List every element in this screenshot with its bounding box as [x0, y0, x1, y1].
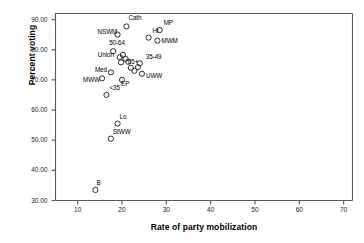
point-label: StWW [113, 128, 131, 135]
point-label: Med [95, 66, 107, 73]
point-label: Union [98, 51, 114, 58]
point-label: UWW [146, 72, 162, 79]
point-label: NSWM [98, 28, 118, 35]
y-tick-label: 70.00 [18, 76, 48, 83]
x-tick-label: 50 [245, 206, 265, 213]
y-tick-label: 60.00 [18, 106, 48, 113]
y-tick-label: 80.00 [18, 46, 48, 53]
y-tick-label: 50.00 [18, 136, 48, 143]
point-label: B [96, 179, 100, 186]
y-axis-ticks [52, 20, 56, 201]
point-label: 50-64 [109, 39, 125, 46]
x-tick-label: 10 [68, 206, 88, 213]
point-label: 35-49 [146, 53, 162, 60]
point-label: MWM [161, 37, 177, 44]
y-tick-label: 30.00 [18, 197, 48, 204]
plot-canvas [0, 0, 364, 243]
point-label: Lo [120, 113, 127, 120]
plot-frame [56, 14, 353, 201]
point-label: Hi [153, 27, 159, 34]
x-axis-ticks [78, 201, 344, 205]
data-markers [93, 24, 162, 193]
point-label: MWW [83, 76, 100, 83]
x-tick-label: 70 [334, 206, 354, 213]
point-label: <35 [109, 84, 120, 91]
x-axis-label: Rate of party mobilization [55, 222, 353, 232]
point-label: EP [121, 80, 129, 87]
y-tick-label: 90.00 [18, 16, 48, 23]
x-tick-label: 20 [112, 206, 132, 213]
x-tick-label: 60 [289, 206, 309, 213]
point-label: Cath [128, 14, 141, 21]
scatter-plot-figure: Percent voting Rate of party mobilizatio… [0, 0, 364, 243]
x-tick-label: 30 [156, 206, 176, 213]
point-label: MP [164, 19, 173, 26]
y-tick-label: 40.00 [18, 166, 48, 173]
point-label: 65+ [128, 58, 139, 65]
x-tick-label: 40 [201, 206, 221, 213]
